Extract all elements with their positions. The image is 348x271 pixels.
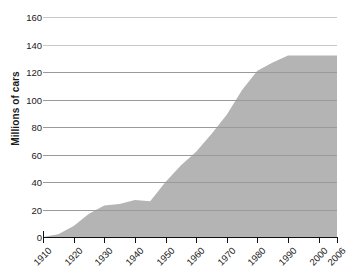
- y-axis-tick-label: 140: [14, 39, 42, 50]
- y-axis-tick-labels: 020406080100120140160: [14, 0, 42, 271]
- x-axis-tick-label: 1960: [184, 245, 207, 268]
- x-axis-tick-label: 1980: [245, 245, 268, 268]
- chart-container: Millions of cars 020406080100120140160 1…: [0, 0, 348, 271]
- y-axis-tick-label: 80: [14, 122, 42, 133]
- x-axis-tick-label: 1990: [276, 245, 299, 268]
- gridline: [43, 127, 337, 128]
- y-axis-tick-label: 160: [14, 12, 42, 23]
- y-axis-tick-label: 120: [14, 67, 42, 78]
- y-axis-tick-label: 100: [14, 94, 42, 105]
- x-axis-tick: [288, 238, 289, 243]
- x-axis-tick: [337, 238, 338, 243]
- x-axis-tick-label: 2006: [325, 245, 348, 268]
- x-axis-tick-label: 1940: [123, 245, 146, 268]
- x-axis-tick-label: 1930: [92, 245, 115, 268]
- y-axis-tick-label: 20: [14, 204, 42, 215]
- y-axis-tick-label: 60: [14, 149, 42, 160]
- gridline: [43, 72, 337, 73]
- x-axis-tick: [104, 238, 105, 243]
- gridline: [43, 45, 337, 46]
- x-axis-tick: [135, 238, 136, 243]
- plot-area: [43, 17, 337, 237]
- x-axis-tick: [257, 238, 258, 243]
- gridline: [43, 182, 337, 183]
- x-axis-tick: [43, 238, 44, 243]
- gridline: [43, 210, 337, 211]
- x-axis-tick-label: 1920: [62, 245, 85, 268]
- y-axis-tick-label: 0: [14, 232, 42, 243]
- x-axis-line: [43, 237, 338, 238]
- gridline: [43, 17, 337, 18]
- x-axis-tick-label: 2000: [307, 245, 330, 268]
- gridline: [43, 100, 337, 101]
- y-axis-tick-label: 40: [14, 177, 42, 188]
- x-axis-tick: [319, 238, 320, 243]
- x-axis-tick-label: 1950: [154, 245, 177, 268]
- x-axis-tick: [166, 238, 167, 243]
- gridline: [43, 155, 337, 156]
- x-axis-tick: [74, 238, 75, 243]
- x-axis-tick: [196, 238, 197, 243]
- x-axis-tick: [227, 238, 228, 243]
- x-axis-tick-label: 1970: [215, 245, 238, 268]
